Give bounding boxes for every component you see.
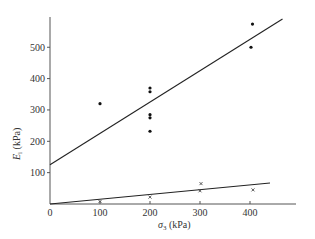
y-tick-label: 100	[30, 167, 45, 178]
dot-marker	[249, 46, 252, 49]
x-label-unit: (kPa)	[166, 219, 190, 231]
dot-marker	[148, 86, 151, 89]
y-tick-label: 300	[30, 104, 45, 115]
chart: 100200300400500 0100200300400 σ3 (kPa) E…	[0, 0, 315, 239]
x-tick-label: 200	[143, 207, 158, 218]
axes	[50, 17, 296, 204]
x-axis-label: σ3 (kPa)	[158, 219, 191, 232]
y-tick-label: 400	[30, 73, 45, 84]
upper-fit-line	[50, 19, 283, 165]
cross-marker	[252, 188, 255, 191]
x-tick-label: 300	[193, 207, 208, 218]
y-axis-label: Ei (kPa)	[11, 128, 24, 161]
y-ticks: 100200300400500	[30, 42, 50, 178]
fit-lines	[50, 19, 283, 204]
y-label-unit: (kPa)	[11, 128, 23, 152]
dot-marker	[148, 113, 151, 116]
x-tick-label: 0	[48, 207, 53, 218]
x-tick-label: 100	[93, 207, 108, 218]
dot-marker	[251, 22, 254, 25]
y-tick-label: 500	[30, 42, 45, 53]
cross-marker	[200, 182, 203, 185]
data-points	[98, 22, 254, 203]
dot-marker	[148, 116, 151, 119]
y-tick-label: 200	[30, 136, 45, 147]
dot-marker	[98, 102, 101, 105]
x-tick-label: 400	[243, 207, 258, 218]
dot-marker	[148, 90, 151, 93]
lower-fit-line	[50, 183, 270, 204]
y-label-symbol: E	[11, 154, 22, 161]
dot-marker	[148, 130, 151, 133]
cross-marker	[149, 196, 152, 199]
